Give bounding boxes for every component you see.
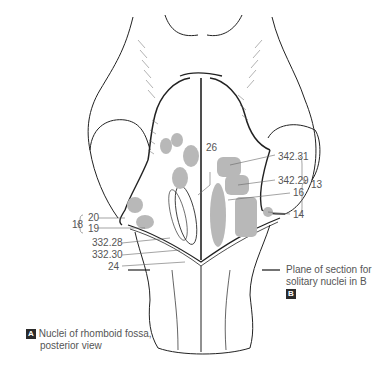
label-24: 24 — [108, 261, 119, 272]
caption-line1: A Nuclei of rhomboid fossa, — [26, 328, 152, 340]
label-332-30: 332.30 — [92, 249, 123, 260]
label-342-29: 342.29 — [278, 175, 309, 186]
caption-line2: posterior view — [26, 340, 152, 352]
label-26: 26 — [206, 142, 217, 153]
label-13: 13 — [311, 179, 322, 190]
label-14: 14 — [293, 209, 304, 220]
label-332-28: 332.28 — [92, 237, 123, 248]
panel-a-badge: A — [26, 329, 36, 339]
panel-b-badge: B — [286, 289, 296, 299]
label-20: 20 — [88, 212, 99, 223]
plane-note-line2: solitary nuclei in B B — [286, 276, 377, 300]
label-16: 16 — [293, 187, 304, 198]
plane-of-section-note: Plane of section for solitary nuclei in … — [286, 264, 377, 300]
plane-note-line1: Plane of section for — [286, 264, 377, 276]
figure-caption: A Nuclei of rhomboid fossa, posterior vi… — [26, 328, 152, 352]
label-342-31: 342.31 — [278, 151, 309, 162]
label-18: 18 — [72, 219, 83, 230]
label-19: 19 — [88, 223, 99, 234]
